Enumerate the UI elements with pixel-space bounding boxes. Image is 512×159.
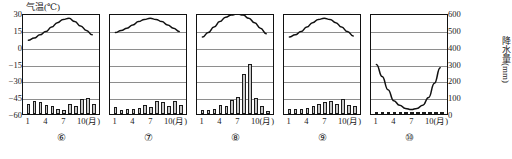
month-axis-labels: 14710(月) [370, 115, 448, 127]
temperature-curve [284, 15, 360, 114]
panel-caption-1: ⑥ [22, 131, 100, 145]
temperature-curve [110, 15, 186, 114]
precipitation-tick-label: 100 [448, 94, 461, 103]
month-tick-label: 1 [25, 115, 29, 127]
month-tick-label: 1 [112, 115, 116, 127]
chart-panel-5: 600500400300200100014710(月)⑩ [370, 14, 448, 145]
panel-caption-5: ⑩ [370, 131, 448, 145]
chart-panel-3: 14710(月)⑧ [196, 14, 274, 145]
panel-caption-3: ⑧ [196, 131, 274, 145]
month-axis-unit: (月) [433, 115, 448, 127]
month-tick-label: 1 [373, 115, 377, 127]
precipitation-tick-label: 200 [448, 77, 461, 86]
precipitation-tick-label: 0 [448, 111, 452, 120]
plot-area [109, 14, 187, 115]
plot-area [283, 14, 361, 115]
precipitation-axis-ticks: 6005004003002001000 [448, 14, 450, 127]
climate-chart-figure: 气温(℃) 降水量(mm) 30150−15−30−45−6014710(月)⑥… [0, 0, 512, 159]
plot-area [370, 14, 448, 115]
chart-panel-4: 14710(月)⑨ [283, 14, 361, 145]
month-tick-label: 10 [164, 115, 173, 127]
month-axis-unit: (月) [172, 115, 187, 127]
month-axis-labels: 14710(月) [196, 115, 274, 127]
month-tick-label: 4 [43, 115, 47, 127]
temperature-tick-label: −15 [9, 60, 22, 69]
temperature-tick-label: 30 [14, 10, 23, 19]
month-tick-label: 10 [77, 115, 86, 127]
month-tick-label: 10 [338, 115, 347, 127]
month-tick-label: 4 [217, 115, 221, 127]
month-tick-label: 7 [409, 115, 413, 127]
plot-area [22, 14, 100, 115]
month-tick-label: 7 [235, 115, 239, 127]
temperature-curve [23, 15, 99, 114]
month-tick-label: 7 [322, 115, 326, 127]
month-tick-label: 4 [304, 115, 308, 127]
month-tick-label: 10 [251, 115, 260, 127]
temperature-tick-label: −30 [9, 77, 22, 86]
month-axis-labels: 14710(月) [22, 115, 100, 127]
month-tick-label: 10 [425, 115, 434, 127]
temperature-curve [197, 15, 273, 114]
precipitation-tick-label: 500 [448, 27, 461, 36]
month-tick-label: 4 [391, 115, 395, 127]
month-tick-label: 7 [148, 115, 152, 127]
left-axis-title: 气温(℃) [26, 2, 60, 12]
month-tick-label: 7 [61, 115, 65, 127]
chart-panel-1: 30150−15−30−45−6014710(月)⑥ [22, 14, 100, 145]
temperature-tick-label: −60 [9, 111, 22, 120]
month-axis-unit: (月) [85, 115, 100, 127]
month-axis-unit: (月) [346, 115, 361, 127]
panel-caption-4: ⑨ [283, 131, 361, 145]
precipitation-tick-label: 300 [448, 60, 461, 69]
chart-panel-2: 14710(月)⑦ [109, 14, 187, 145]
temperature-tick-label: −45 [9, 94, 22, 103]
month-axis-labels: 14710(月) [283, 115, 361, 127]
temperature-tick-label: 15 [14, 27, 23, 36]
plot-area [196, 14, 274, 115]
month-axis-labels: 14710(月) [109, 115, 187, 127]
panel-caption-2: ⑦ [109, 131, 187, 145]
month-tick-label: 1 [286, 115, 290, 127]
temperature-curve [371, 15, 447, 114]
month-tick-label: 4 [130, 115, 134, 127]
precipitation-tick-label: 400 [448, 43, 461, 52]
month-tick-label: 1 [199, 115, 203, 127]
chart-panel-row: 30150−15−30−45−6014710(月)⑥14710(月)⑦14710… [0, 14, 512, 159]
month-axis-unit: (月) [259, 115, 274, 127]
precipitation-tick-label: 600 [448, 10, 461, 19]
